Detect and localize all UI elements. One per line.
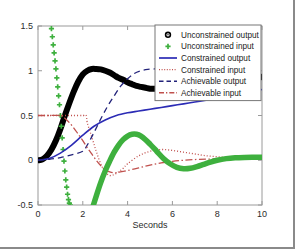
y-tick-label: 1 [28,66,33,76]
chart-legend[interactable]: Unconstrained outputUnconstrained inputC… [155,25,261,101]
x-tick-label: 0 [35,209,40,219]
legend-label[interactable]: Constrained input [181,66,246,75]
y-tick-label: 1.5 [20,21,33,31]
legend-label[interactable]: Achievable input [181,89,242,98]
y-tick-label: 0.5 [20,111,33,121]
x-tick-label: 2 [80,209,85,219]
y-tick-label: -0.5 [17,200,33,210]
screenshot-frame: 0246810-0.500.511.5 Seconds Unconstraine… [0,0,295,249]
legend-label[interactable]: Unconstrained input [181,42,255,51]
x-tick-label: 8 [215,209,220,219]
x-axis-label: Seconds [132,220,168,230]
x-tick-label: 4 [125,209,130,219]
figure-canvas: 0246810-0.500.511.5 Seconds Unconstraine… [0,0,281,237]
y-tick-label: 0 [28,155,33,165]
x-tick-label: 6 [170,209,175,219]
legend-label[interactable]: Constrained output [181,54,251,63]
chart-plot: 0246810-0.500.511.5 Seconds Unconstraine… [0,0,281,237]
x-tick-label: 10 [257,209,267,219]
legend-label[interactable]: Achievable output [181,77,247,86]
legend-label[interactable]: Unconstrained output [181,31,260,40]
legend-circle-dot-icon [167,34,168,35]
